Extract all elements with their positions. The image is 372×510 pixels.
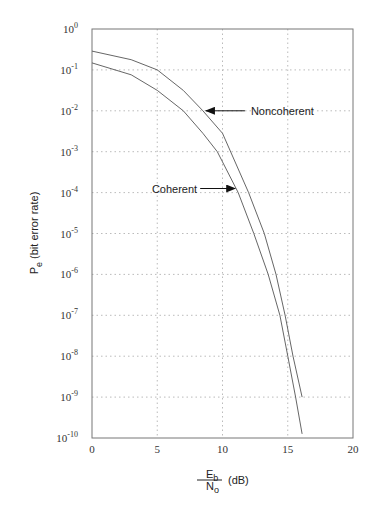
y-label-sub: e — [34, 262, 44, 267]
y-tick-label: 10-3 — [60, 144, 78, 158]
series-noncoherent-line — [92, 51, 302, 397]
y-label-main: P — [28, 267, 40, 274]
y-axis-label: Pe(bit error rate) — [28, 192, 44, 275]
y-tick-label: 10-9 — [60, 389, 78, 403]
x-tick-label: 5 — [155, 443, 161, 455]
x-label-unit: (dB) — [228, 474, 249, 486]
y-tick-label: 10-6 — [60, 266, 78, 280]
x-tick-label: 10 — [217, 443, 229, 455]
grid — [92, 29, 353, 438]
annotations: NoncoherentCoherent — [152, 105, 314, 195]
y-tick-label: 10-4 — [60, 185, 78, 199]
x-tick-label: 0 — [89, 443, 95, 455]
ber-chart: 05101520 10010-110-210-310-410-510-610-7… — [0, 0, 372, 510]
y-tick-label: 10-7 — [60, 307, 78, 321]
annotation-label: Noncoherent — [251, 105, 314, 117]
x-tick-label: 15 — [282, 443, 294, 455]
x-axis-label: Eb No (dB) — [197, 468, 249, 495]
y-tick-label: 10-1 — [60, 62, 78, 76]
y-axis-ticks: 10010-110-210-310-410-510-610-710-810-91… — [56, 21, 78, 444]
annotation-label: Coherent — [152, 183, 197, 195]
x-tick-label: 20 — [348, 443, 360, 455]
x-axis-ticks: 05101520 — [89, 443, 359, 455]
y-label-rest: (bit error rate) — [28, 192, 40, 259]
y-tick-label: 10-10 — [56, 430, 78, 444]
series-coherent-line — [92, 63, 302, 434]
y-tick-label: 100 — [63, 21, 78, 35]
y-tick-label: 10-2 — [60, 103, 78, 117]
y-tick-label: 10-5 — [60, 226, 78, 240]
y-tick-label: 10-8 — [60, 348, 78, 362]
